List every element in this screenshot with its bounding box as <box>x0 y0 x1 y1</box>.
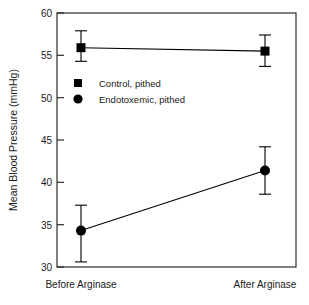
data-point-endotoxemic-after <box>260 166 270 176</box>
y-tick-label-45: 45 <box>41 135 53 146</box>
legend-label-endotoxemic: Endotoxemic, pithed <box>99 94 185 105</box>
x-category-label-before: Before Arginase <box>45 279 117 290</box>
y-tick-label-60: 60 <box>41 8 53 19</box>
data-point-control-after <box>261 47 270 56</box>
chart-page: 60 55 50 45 40 35 30 Mean Blood Pressure… <box>0 0 309 305</box>
y-tick-label-40: 40 <box>41 177 53 188</box>
blood-pressure-line-chart: 60 55 50 45 40 35 30 Mean Blood Pressure… <box>0 0 309 305</box>
y-tick-label-30: 30 <box>41 262 53 273</box>
circle-marker-icon <box>73 94 82 103</box>
y-tick-label-35: 35 <box>41 220 53 231</box>
legend-label-control: Control, pithed <box>99 78 161 89</box>
y-axis-title: Mean Blood Pressure (mmHg) <box>7 69 19 211</box>
square-marker-icon <box>74 79 82 87</box>
x-category-label-after: After Arginase <box>234 279 297 290</box>
y-tick-label-55: 55 <box>41 50 53 61</box>
y-tick-label-50: 50 <box>41 93 53 104</box>
data-point-endotoxemic-before <box>76 226 86 236</box>
data-point-control-before <box>77 43 86 52</box>
